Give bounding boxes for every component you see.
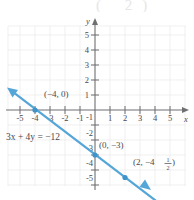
fraction-numerator: 1: [167, 157, 170, 163]
y-tick-label: 1: [85, 90, 89, 100]
equation-label: 3x + 4y = −12: [6, 132, 60, 142]
point-label-third: (2, −4 1 2 ): [133, 157, 175, 171]
y-tick-label: 3: [85, 60, 89, 70]
y-tick-labels: 5 4 3 2 1 -1 -2 -3 -4 -5: [85, 30, 94, 183]
x-tick-label: 3: [138, 113, 142, 123]
x-tick-label: 4: [153, 113, 158, 123]
point-label-y-intercept: (0, −3): [99, 140, 124, 150]
y-axis-label: y: [85, 16, 90, 26]
y-tick-label: -2: [86, 128, 93, 138]
point-marker-y-intercept: [92, 152, 97, 157]
x-tick-label: 1: [108, 113, 112, 123]
x-tick-label: -2: [61, 113, 68, 123]
x-tick-label: -1: [76, 113, 83, 123]
y-tick-label: -4: [86, 158, 94, 168]
fraction-denominator: 2: [167, 165, 170, 171]
x-axis-label: x: [183, 114, 188, 124]
x-tick-label: 2: [123, 113, 127, 123]
y-tick-label: 2: [85, 75, 89, 85]
point-label-x-intercept: (−4, 0): [44, 89, 69, 99]
point-marker-third: [122, 175, 127, 180]
x-tick-label: -5: [16, 113, 23, 123]
graph-figure: ( 2): [0, 0, 194, 200]
point-label-third-prefix: (2, −4: [133, 157, 155, 167]
y-tick-label: 5: [85, 30, 89, 40]
x-tick-labels: -5 -4 -3 -2 -1 1 2 3 4 5: [16, 113, 172, 123]
point-label-third-suffix: ): [172, 157, 175, 167]
y-tick-label: -1: [86, 112, 93, 122]
point-marker-x-intercept: [32, 107, 37, 112]
coordinate-plane: -5 -4 -3 -2 -1 1 2 3 4 5 5 4 3 2 1 -1 -2…: [0, 0, 194, 200]
x-tick-label: -4: [31, 113, 39, 123]
y-tick-label: -5: [86, 173, 93, 183]
x-tick-label: 5: [168, 113, 172, 123]
